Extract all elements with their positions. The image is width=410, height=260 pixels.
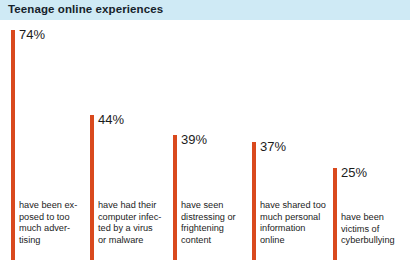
- caption-line: have been: [341, 212, 395, 224]
- bar-group-4: 25% have been victims of cyberbullying: [333, 20, 410, 260]
- bar-0: [11, 30, 15, 260]
- caption-line: ted by a virus: [98, 223, 161, 235]
- bar-value-4: 25%: [341, 166, 367, 179]
- caption-line: frightening: [181, 223, 236, 235]
- chart-header-band: Teenage online experiences: [0, 0, 410, 20]
- bar-group-3: 37% have shared too much personal inform…: [252, 20, 330, 260]
- caption-line: online: [260, 235, 326, 247]
- bar-value-3: 37%: [260, 140, 286, 153]
- bar-value-2: 39%: [181, 133, 207, 146]
- caption-line: have had their: [98, 200, 161, 212]
- bar-caption-1: have had their computer infec- ted by a …: [98, 200, 161, 246]
- bar-value-1: 44%: [98, 113, 124, 126]
- caption-line: victims of: [341, 224, 395, 236]
- bar-1: [90, 115, 94, 260]
- caption-line: tising: [19, 235, 77, 247]
- caption-line: much personal: [260, 212, 326, 224]
- bar-caption-4: have been victims of cyberbullying: [341, 212, 395, 247]
- caption-line: computer infec-: [98, 212, 161, 224]
- bar-4: [333, 168, 337, 260]
- caption-line: information: [260, 223, 326, 235]
- caption-line: cyberbullying: [341, 235, 395, 247]
- chart-plot-area: 74% have been ex- posed to too much adve…: [0, 20, 410, 260]
- caption-line: or malware: [98, 235, 161, 247]
- bar-group-2: 39% have seen distressing or frightening…: [173, 20, 251, 260]
- bar-2: [173, 135, 177, 260]
- caption-line: have shared too: [260, 200, 326, 212]
- caption-line: posed to too: [19, 212, 77, 224]
- caption-line: much adver-: [19, 223, 77, 235]
- page-title: Teenage online experiences: [8, 3, 163, 15]
- bar-group-0: 74% have been ex- posed to too much adve…: [11, 20, 85, 260]
- caption-line: distressing or: [181, 212, 236, 224]
- chart-figure: Teenage online experiences 74% have been…: [0, 0, 410, 260]
- bar-3: [252, 142, 256, 260]
- caption-line: content: [181, 235, 236, 247]
- bar-caption-0: have been ex- posed to too much adver- t…: [19, 200, 77, 246]
- bar-caption-2: have seen distressing or frightening con…: [181, 200, 236, 246]
- caption-line: have seen: [181, 200, 236, 212]
- bar-caption-3: have shared too much personal informatio…: [260, 200, 326, 246]
- bar-group-1: 44% have had their computer infec- ted b…: [90, 20, 168, 260]
- bar-value-0: 74%: [19, 28, 45, 41]
- caption-line: have been ex-: [19, 200, 77, 212]
